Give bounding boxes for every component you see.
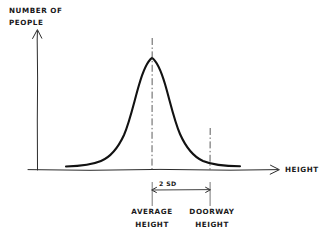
label-leader-ticks: [152, 198, 210, 206]
y-axis-label-line1: NUMBER OF: [9, 6, 62, 15]
distribution-curve: [66, 58, 240, 167]
chart-canvas: NUMBER OF PEOPLE HEIGHT 2 SD AVERAGE HEI…: [0, 0, 331, 237]
x-axis-label: HEIGHT: [285, 165, 319, 174]
bell-curve-sketch-figure: NUMBER OF PEOPLE HEIGHT 2 SD AVERAGE HEI…: [0, 0, 331, 237]
average-height-label-line1: AVERAGE: [131, 207, 172, 216]
x-axis-line: [28, 169, 278, 170]
doorway-height-label-line2: HEIGHT: [195, 220, 229, 229]
y-axis-label-line2: PEOPLE: [9, 18, 43, 27]
doorway-height-label-line1: DOORWAY: [189, 207, 234, 216]
average-height-label-line2: HEIGHT: [135, 220, 169, 229]
y-axis: [33, 30, 42, 170]
bell-curve-path: [66, 58, 240, 167]
sd-span-label: 2 SD: [159, 180, 177, 187]
